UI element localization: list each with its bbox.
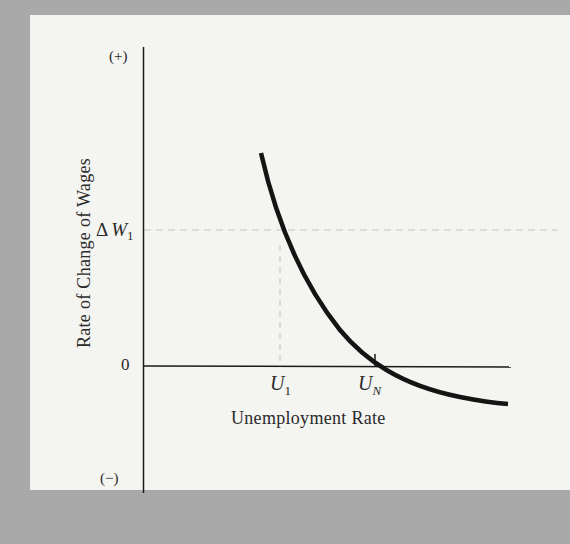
un-symbol: U [358, 372, 372, 394]
x-axis [143, 366, 511, 367]
un-label: UN [358, 372, 381, 399]
u1-label: U1 [270, 372, 291, 399]
y-axis-positive-marker: (+) [109, 48, 127, 65]
w-symbol: W [111, 219, 127, 240]
un-subscript: N [372, 383, 381, 398]
delta-w1-label: ΔW1 [96, 219, 134, 244]
delta-symbol: Δ [96, 219, 108, 240]
y-axis-negative-marker: (−) [100, 470, 118, 487]
y-axis-label: Rate of Change of Wages [74, 158, 95, 348]
w-subscript: 1 [127, 228, 134, 243]
u1-subscript: 1 [284, 383, 291, 398]
u1-symbol: U [270, 372, 284, 394]
y-axis-zero-label: 0 [121, 355, 130, 375]
x-axis-label: Unemployment Rate [231, 408, 386, 429]
